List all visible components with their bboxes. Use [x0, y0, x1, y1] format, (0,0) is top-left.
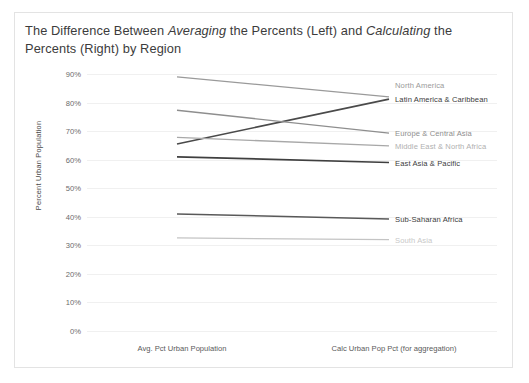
series-label[interactable]: North America [395, 81, 444, 90]
series-line[interactable] [177, 157, 389, 163]
visualization-frame: The Difference Between Averaging the Per… [14, 12, 513, 368]
series-label[interactable]: Sub-Saharan Africa [395, 215, 463, 224]
x-axis-tick-label: Calc Urban Pop Pct (for aggregation) [332, 344, 457, 353]
series-lines-group [15, 13, 514, 369]
series-line[interactable] [177, 137, 389, 146]
series-label[interactable]: South Asia [395, 235, 432, 244]
series-label[interactable]: Middle East & North Africa [395, 141, 486, 150]
series-line[interactable] [177, 238, 389, 240]
series-line[interactable] [177, 214, 389, 219]
series-label[interactable]: Europe & Central Asia [395, 129, 472, 138]
plot-area: Percent Urban Population 90%80%70%60%50%… [15, 13, 514, 369]
series-line[interactable] [177, 110, 389, 133]
series-label[interactable]: Latin America & Caribbean [395, 95, 488, 104]
series-line[interactable] [177, 77, 389, 97]
x-axis-tick-label: Avg. Pct Urban Population [138, 344, 227, 353]
series-label[interactable]: East Asia & Pacific [395, 158, 460, 167]
